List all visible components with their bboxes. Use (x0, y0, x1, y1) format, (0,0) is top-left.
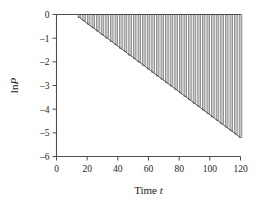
bar (110, 15, 113, 42)
bar (147, 15, 150, 69)
y-tick-label: –5 (39, 128, 50, 138)
y-tick-label: –2 (39, 57, 50, 67)
y-tick-label: –6 (39, 152, 50, 162)
bar (175, 15, 178, 90)
chart-figure: 0–1–2–3–4–5–6020406080100120Time tlnP (0, 0, 265, 211)
bar (87, 15, 90, 25)
bar (138, 15, 141, 63)
bar (161, 15, 164, 80)
bar (184, 15, 187, 97)
bar (179, 15, 182, 93)
x-axis-title-variable: t (160, 184, 164, 196)
bar (97, 15, 100, 32)
x-tick-label: 20 (82, 164, 92, 174)
bar (133, 15, 136, 59)
bar (129, 15, 132, 56)
x-tick-label: 120 (233, 164, 248, 174)
bar (152, 15, 155, 73)
x-tick-label: 80 (174, 164, 184, 174)
bar (230, 15, 233, 131)
x-tick-label: 0 (54, 164, 59, 174)
x-tick-label: 60 (144, 164, 154, 174)
bar (101, 15, 104, 35)
bar (207, 15, 210, 114)
bar (170, 15, 173, 86)
x-axis-title: Time t (134, 184, 164, 196)
bar (221, 15, 224, 124)
bar (235, 15, 238, 135)
bar (198, 15, 201, 107)
x-tick-label: 100 (203, 164, 218, 174)
bar (106, 15, 109, 38)
bar (193, 15, 196, 104)
bar (92, 15, 95, 28)
bar (189, 15, 192, 100)
x-axis-title-text: Time (134, 184, 160, 196)
bar (202, 15, 205, 111)
bar (156, 15, 159, 76)
bar (212, 15, 215, 117)
bar (124, 15, 127, 52)
y-tick-label: 0 (45, 10, 50, 20)
y-tick-label: –4 (39, 105, 50, 115)
bar (115, 15, 118, 45)
bar-series (78, 15, 242, 138)
bar (225, 15, 228, 128)
bar (120, 15, 123, 49)
ln-p-vs-time-plot: 0–1–2–3–4–5–6020406080100120Time tlnP (0, 0, 265, 211)
y-tick-label: –3 (39, 81, 50, 91)
x-tick-label: 40 (113, 164, 123, 174)
y-tick-label: –1 (39, 34, 50, 44)
bar (143, 15, 146, 66)
y-axis-title-variable: P (8, 78, 20, 86)
y-axis-title: lnP (8, 78, 20, 94)
bar (216, 15, 219, 121)
bar (166, 15, 169, 83)
bar (239, 15, 242, 138)
